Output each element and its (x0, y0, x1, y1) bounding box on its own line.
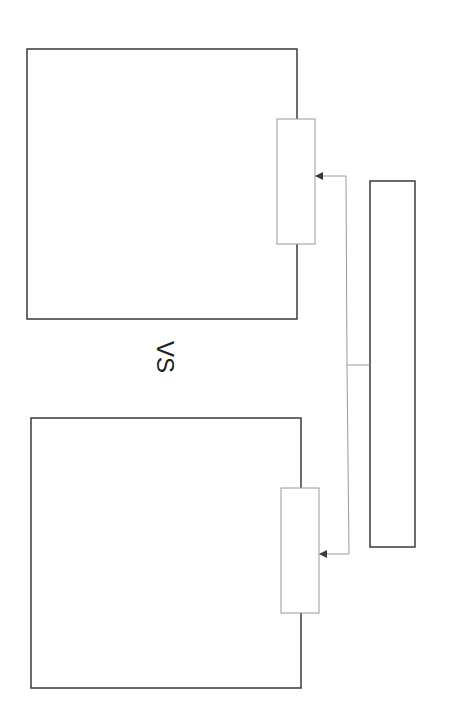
connector-to-bottom-panel (320, 365, 349, 554)
top-frame (27, 49, 297, 319)
bottom-frame (31, 418, 301, 688)
vs-label: VS (153, 337, 177, 377)
source-bar (370, 181, 415, 547)
top-frame-panel (277, 119, 315, 244)
bottom-frame-panel (281, 488, 319, 613)
comparison-diagram (0, 0, 449, 727)
connector-to-top-panel (316, 176, 347, 365)
